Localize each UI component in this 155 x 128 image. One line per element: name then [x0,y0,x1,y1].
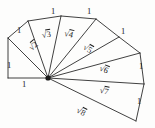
spoke-r9 [48,78,136,121]
unit-length-label: 1 [87,7,91,16]
unit-length-label: 1 [137,97,141,106]
spoke-r6 [48,37,119,78]
unit-length-label: 1 [17,26,21,35]
unit-length-label: 1 [139,62,143,71]
unit-length-label: 1 [7,61,11,70]
origin-hub-point [45,75,50,80]
edge-6 [119,37,140,53]
edge-4 [61,16,96,19]
radicand-value: 3 [45,28,52,38]
unit-length-label: 1 [22,80,26,89]
spoke-r7 [48,53,140,78]
spoke-r8 [48,78,144,84]
spiral-of-theodorus-figure: 11111111 √2√3√4√5√6√7√8 [0,0,155,128]
unit-length-label: 1 [51,7,55,16]
radical-length-label-7: √7 [99,84,110,95]
edge-3 [28,16,61,21]
spoke-r4 [48,16,61,78]
edge-5 [96,19,119,37]
unit-length-label: 1 [121,27,125,36]
radical-length-label-3: √3 [41,28,52,39]
